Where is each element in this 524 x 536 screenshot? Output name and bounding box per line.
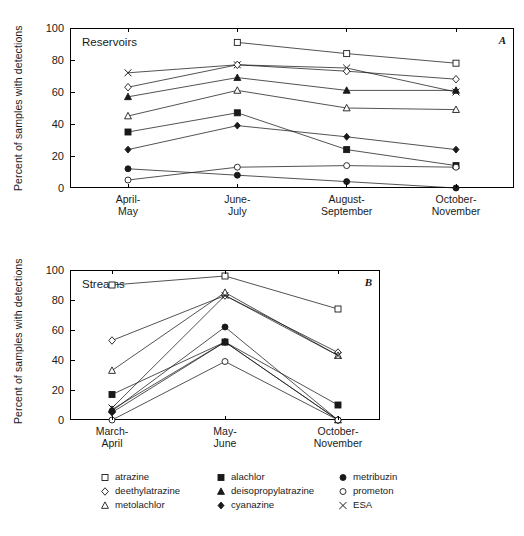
x-tick-mark xyxy=(225,270,226,274)
x-axis-tick-label: March-April xyxy=(96,426,129,449)
x-tick-mark xyxy=(338,270,339,274)
x-tick-mark xyxy=(112,416,113,420)
x-tick-mark xyxy=(237,184,238,188)
y-axis-tick-0: 0 xyxy=(38,414,64,426)
series-marker-atrazine xyxy=(109,282,115,288)
series-marker-cyanazine xyxy=(234,122,240,129)
legend-item-label: alachlor xyxy=(231,470,265,483)
legend-item-deisopropylatrazine: deisopropylatrazine xyxy=(216,484,338,497)
series-marker-prometon xyxy=(125,177,131,183)
legend-item-label: deethylatrazine xyxy=(115,484,180,497)
filled-triangle-icon xyxy=(216,486,226,496)
x-axis-tick-label: August-September xyxy=(321,194,372,217)
filled-square-glyph xyxy=(218,474,224,480)
figure-legend: atrazinealachlormetribuzindeethylatrazin… xyxy=(100,470,430,511)
series-marker-atrazine xyxy=(344,51,350,57)
series-marker-atrazine xyxy=(335,306,341,312)
open-circle-glyph xyxy=(340,488,346,494)
x-axis-tick-label: October-November xyxy=(432,194,480,217)
legend-item-label: metolachlor xyxy=(115,498,165,511)
series-marker-prometon xyxy=(222,359,228,365)
legend-item-label: prometon xyxy=(353,484,394,497)
series-marker-metolachlor xyxy=(222,289,229,295)
y-axis-tick-0: 0 xyxy=(38,182,64,194)
y-tick-mark xyxy=(70,300,75,301)
plot-area-a: Reservoirs A xyxy=(70,28,514,188)
x-tick-mark xyxy=(128,184,129,188)
legend-item-metolachlor: metolachlor xyxy=(100,498,216,511)
series-line-prometon xyxy=(112,362,338,421)
series-marker-deethylatrazine xyxy=(125,83,132,91)
series-marker-prometon xyxy=(453,164,459,170)
open-square-glyph xyxy=(102,474,108,480)
series-marker-deethylatrazine xyxy=(453,75,460,83)
series-line-cyanazine xyxy=(112,342,338,420)
series-marker-metribuzin xyxy=(125,166,131,172)
series-marker-cyanazine xyxy=(125,146,131,153)
legend-item-label: deisopropylatrazine xyxy=(231,484,314,497)
filled-circle-glyph xyxy=(340,474,346,480)
series-marker-metolachlor xyxy=(234,87,241,93)
x-tick-mark xyxy=(112,270,113,274)
series-marker-metribuzin xyxy=(222,324,228,330)
series-line-prometon xyxy=(128,166,456,180)
filled-square-icon xyxy=(216,472,226,482)
x-tick-mark xyxy=(456,28,457,32)
series-marker-prometon xyxy=(234,164,240,170)
series-marker-alachlor xyxy=(125,129,131,135)
series-marker-deisopropylatrazine xyxy=(234,74,241,80)
legend-item-atrazine: atrazine xyxy=(100,470,216,483)
cross-icon xyxy=(338,500,348,510)
y-axis-tick-100: 100 xyxy=(38,264,64,276)
legend-item-metribuzin: metribuzin xyxy=(338,470,430,483)
filled-triangle-glyph xyxy=(218,487,225,493)
series-marker-metribuzin xyxy=(234,172,240,178)
y-axis-tick-80: 80 xyxy=(38,54,64,66)
legend-item-alachlor: alachlor xyxy=(216,470,338,483)
series-marker-alachlor xyxy=(234,110,240,116)
x-tick-mark xyxy=(338,416,339,420)
legend-item-prometon: prometon xyxy=(338,484,430,497)
open-diamond-glyph xyxy=(102,487,109,495)
open-triangle-icon xyxy=(100,500,110,510)
series-marker-cyanazine xyxy=(344,133,350,140)
x-tick-mark xyxy=(237,28,238,32)
series-line-deisopropylatrazine xyxy=(112,342,338,420)
y-axis-tick-20: 20 xyxy=(38,384,64,396)
open-triangle-glyph xyxy=(102,501,109,507)
y-tick-mark xyxy=(70,156,75,157)
series-marker-prometon xyxy=(344,163,350,169)
series-marker-metolachlor xyxy=(109,367,116,373)
series-line-cyanazine xyxy=(128,126,456,150)
series-marker-alachlor xyxy=(344,147,350,153)
open-square-icon xyxy=(100,472,110,482)
y-axis-tick-20: 20 xyxy=(38,150,64,162)
open-diamond-icon xyxy=(100,486,110,496)
y-tick-mark xyxy=(70,92,75,93)
y-tick-mark xyxy=(70,60,75,61)
series-marker-atrazine xyxy=(453,60,459,66)
x-axis-tick-label: October-November xyxy=(314,426,362,449)
series-line-metribuzin xyxy=(128,169,456,188)
series-line-alachlor xyxy=(112,342,338,405)
legend-item-deethylatrazine: deethylatrazine xyxy=(100,484,216,497)
series-marker-alachlor xyxy=(335,402,341,408)
legend-item-esa: ESA xyxy=(338,498,430,511)
filled-diamond-icon xyxy=(216,500,226,510)
y-axis-label-b: Percent of samples with detections xyxy=(12,266,24,424)
series-line-metolachlor xyxy=(128,90,456,116)
open-circle-icon xyxy=(338,486,348,496)
y-axis-tick-100: 100 xyxy=(38,22,64,34)
series-marker-cyanazine xyxy=(453,146,459,153)
x-tick-mark xyxy=(346,28,347,32)
chart-panel-streams: Percent of samples with detections Strea… xyxy=(0,252,524,452)
x-axis-tick-label: April-May xyxy=(116,194,141,217)
y-axis-tick-40: 40 xyxy=(38,354,64,366)
series-layer-b xyxy=(70,270,380,420)
plot-area-b: Streams B xyxy=(70,270,380,420)
y-axis-tick-80: 80 xyxy=(38,294,64,306)
y-axis-tick-60: 60 xyxy=(38,324,64,336)
legend-item-label: ESA xyxy=(353,498,372,511)
y-axis-tick-60: 60 xyxy=(38,86,64,98)
series-marker-atrazine xyxy=(234,39,240,45)
